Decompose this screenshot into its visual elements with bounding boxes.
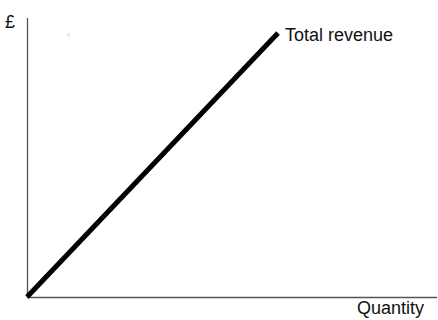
x-axis-label: Quantity: [357, 298, 424, 318]
series-line-total-revenue: [27, 33, 278, 297]
scan-artifact-speck: [67, 33, 70, 37]
y-axis-label: £: [5, 12, 15, 32]
chart-canvas: [0, 0, 438, 320]
chart-figure: £ Total revenue Quantity: [0, 0, 438, 320]
series-label-total-revenue: Total revenue: [285, 25, 393, 45]
